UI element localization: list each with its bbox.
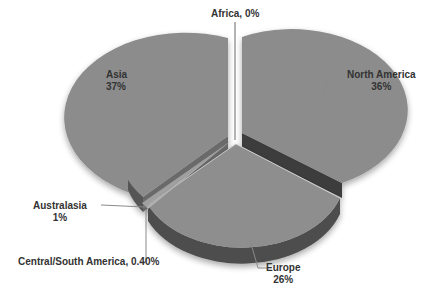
label-australasia-value: 1% — [33, 212, 87, 224]
label-north-america: North America 36% — [347, 69, 416, 93]
label-europe-name: Europe — [266, 262, 300, 274]
label-europe-value: 26% — [266, 274, 300, 286]
label-asia-value: 37% — [106, 81, 127, 93]
label-australasia-name: Australasia — [33, 200, 87, 212]
label-north-america-name: North America — [347, 69, 416, 81]
label-africa: Africa, 0% — [211, 8, 259, 20]
label-asia: Asia 37% — [106, 69, 127, 93]
label-europe: Europe 26% — [266, 262, 300, 286]
label-central-south-america-text: Central/South America, 0.40% — [18, 256, 159, 267]
label-north-america-value: 36% — [347, 81, 416, 93]
label-australasia: Australasia 1% — [33, 200, 87, 224]
label-asia-name: Asia — [106, 69, 127, 81]
label-central-south-america: Central/South America, 0.40% — [18, 256, 159, 268]
label-africa-text: Africa, 0% — [211, 8, 259, 19]
